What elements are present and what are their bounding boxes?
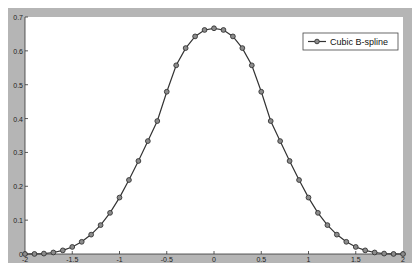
- data-point-marker: [401, 252, 406, 257]
- data-point-marker: [363, 248, 368, 253]
- data-point-marker: [325, 223, 330, 228]
- data-point-marker: [382, 251, 387, 256]
- data-point-marker: [344, 239, 349, 244]
- data-point-marker: [164, 89, 169, 94]
- legend: Cubic B-spline: [303, 33, 398, 50]
- data-point-marker: [42, 251, 47, 256]
- y-tick-label: 0.6: [13, 48, 23, 55]
- x-tick-label: 1: [307, 256, 311, 263]
- data-point-marker: [391, 252, 396, 257]
- data-point-marker: [259, 89, 264, 94]
- data-point-marker: [183, 46, 188, 51]
- data-point-marker: [136, 159, 141, 164]
- x-tick-label: -1.5: [66, 256, 78, 263]
- data-point-marker: [79, 239, 84, 244]
- data-point-marker: [89, 232, 94, 237]
- y-tick-label: 0.3: [13, 149, 23, 156]
- data-point-marker: [70, 245, 75, 250]
- y-tick-label: 0.7: [13, 14, 23, 21]
- data-point-marker: [117, 195, 122, 200]
- data-point-marker: [51, 250, 56, 255]
- y-tick-label: 0.2: [13, 183, 23, 190]
- legend-marker-icon: [315, 39, 320, 44]
- x-tick-label: 1.5: [351, 256, 361, 263]
- data-point-marker: [221, 28, 226, 33]
- data-point-marker: [372, 250, 377, 255]
- b-spline-chart: 00.10.20.30.40.50.60.7 -2-1.5-1-0.500.51…: [0, 0, 419, 275]
- data-point-marker: [278, 139, 283, 144]
- data-point-marker: [174, 63, 179, 68]
- x-tick-label: 2: [401, 256, 405, 263]
- data-point-marker: [60, 248, 65, 253]
- y-tick-label: 0.4: [13, 116, 23, 123]
- data-point-marker: [306, 195, 311, 200]
- data-point-marker: [145, 139, 150, 144]
- x-tick-label: -1: [116, 256, 122, 263]
- data-point-marker: [297, 178, 302, 183]
- data-point-marker: [155, 119, 160, 124]
- legend-label: Cubic B-spline: [330, 37, 388, 47]
- data-point-marker: [193, 34, 198, 39]
- y-tick-label: 0.1: [13, 217, 23, 224]
- data-point-marker: [240, 46, 245, 51]
- data-point-marker: [334, 232, 339, 237]
- data-point-marker: [231, 34, 236, 39]
- x-tick-label: 0: [212, 256, 216, 263]
- data-point-marker: [212, 26, 217, 31]
- data-point-marker: [32, 252, 37, 257]
- data-point-marker: [127, 178, 132, 183]
- x-tick-label: -0.5: [161, 256, 173, 263]
- data-point-marker: [268, 119, 273, 124]
- x-tick-label: 0.5: [256, 256, 266, 263]
- data-point-marker: [23, 252, 28, 257]
- data-point-marker: [287, 159, 292, 164]
- data-point-marker: [316, 210, 321, 215]
- data-point-marker: [108, 210, 113, 215]
- plot-area: [25, 17, 403, 254]
- x-tick-label: -2: [22, 256, 28, 263]
- y-tick-label: 0.5: [13, 82, 23, 89]
- data-point-marker: [353, 245, 358, 250]
- data-point-marker: [249, 63, 254, 68]
- data-point-marker: [98, 223, 103, 228]
- data-point-marker: [202, 28, 207, 33]
